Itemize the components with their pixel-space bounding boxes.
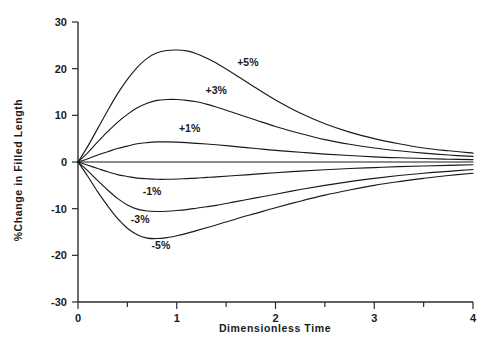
series-line-neg1 <box>78 162 473 179</box>
series-label: +3% <box>206 84 228 96</box>
x-tick-label: 1 <box>174 312 180 324</box>
y-tick-label: -30 <box>51 296 67 308</box>
series-line-3 <box>78 99 473 162</box>
y-tick-label: 30 <box>55 16 67 28</box>
series-line-5 <box>78 50 473 162</box>
y-axis-ticks <box>72 22 78 302</box>
y-axis-tick-labels: 3020100-10-20-30 <box>51 16 67 308</box>
y-tick-label: -20 <box>51 249 67 261</box>
chart-figure: 3020100-10-20-30 01234 +5%+3%+1%-1%-3%-5… <box>0 0 488 344</box>
x-axis-ticks <box>78 302 473 309</box>
series-label: +1% <box>179 122 201 134</box>
series-line-neg3 <box>78 162 473 211</box>
y-axis-title: %Change in Filled Length <box>12 99 24 242</box>
series-label: -3% <box>131 213 150 225</box>
y-tick-label: 10 <box>55 109 67 121</box>
series-annotations-group: +5%+3%+1%-1%-3%-5% <box>131 56 259 251</box>
series-label: +5% <box>237 56 259 68</box>
series-label: -1% <box>143 185 162 197</box>
series-line-neg5 <box>78 162 473 239</box>
x-tick-label: 3 <box>371 312 377 324</box>
y-tick-label: -10 <box>51 203 67 215</box>
x-axis-title: Dimensionless Time <box>219 322 331 334</box>
x-tick-label: 0 <box>75 312 81 324</box>
chart-svg: 3020100-10-20-30 01234 +5%+3%+1%-1%-3%-5… <box>0 0 488 344</box>
x-tick-label: 4 <box>470 312 477 324</box>
y-tick-label: 20 <box>55 63 67 75</box>
data-series-group <box>78 50 473 239</box>
series-label: -5% <box>152 239 171 251</box>
y-tick-label: 0 <box>61 156 67 168</box>
